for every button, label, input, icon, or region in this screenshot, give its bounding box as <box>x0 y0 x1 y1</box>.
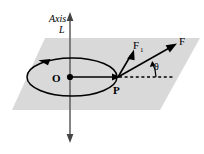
axis-name-label: L <box>58 24 65 35</box>
force-f-label: F <box>179 35 185 47</box>
force-f1-label: F <box>133 39 139 51</box>
diagram-canvas: Axis L O P F F 1 θ <box>0 0 204 154</box>
point-p-label: P <box>113 84 120 96</box>
point-o-marker <box>67 74 73 80</box>
torque-diagram: Axis L O P F F 1 θ <box>0 0 204 154</box>
angle-theta-label: θ <box>154 61 159 72</box>
force-f1-subscript: 1 <box>140 46 144 54</box>
axis-label: Axis <box>48 13 66 24</box>
point-o-label: O <box>52 72 61 84</box>
